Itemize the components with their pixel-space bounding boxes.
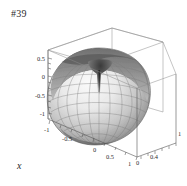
figure-title: #39 bbox=[11, 8, 27, 19]
ytick-label: -1 bbox=[40, 110, 45, 117]
ytick-label: -0.5 bbox=[35, 92, 45, 99]
ytick-label: 0.5 bbox=[37, 55, 45, 62]
surface-mesh bbox=[47, 48, 152, 146]
xtick-label: 0.5 bbox=[106, 153, 114, 160]
ztick-label: 1 bbox=[178, 130, 181, 137]
ytick-label: 0 bbox=[42, 73, 45, 80]
axis-bottom-right: 0 0.4 1 bbox=[136, 130, 181, 166]
xtick-label: -1 bbox=[44, 126, 49, 133]
xtick-label: 1 bbox=[128, 160, 131, 167]
ztick-label: 0.4 bbox=[150, 153, 159, 160]
axis-annotation-x: x bbox=[17, 160, 21, 171]
figure-3d-surface-plot: #39 x bbox=[0, 0, 187, 186]
ztick-label: 0 bbox=[136, 159, 139, 166]
xtick-label: -0.5 bbox=[62, 135, 72, 142]
surface-plot-canvas: 0.5 0 -0.5 -1 -1 -0.5 0 0.5 1 bbox=[0, 0, 187, 186]
xtick-label: 0 bbox=[93, 146, 96, 153]
